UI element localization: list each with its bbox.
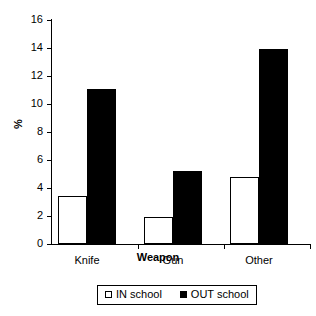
y-axis-tick-label: 0 [37,237,43,249]
y-axis-tick: 2 [47,216,52,217]
y-axis-tick: 6 [47,160,52,161]
y-axis-tick: 16 [47,20,52,21]
filled-square-icon [180,291,187,298]
bar-gun-out-school [173,171,202,244]
x-axis-tick [224,244,225,249]
y-axis-title: % [12,110,24,138]
y-axis-tick-label: 12 [31,69,43,81]
y-axis-tick-label: 16 [31,13,43,25]
hollow-square-icon [105,291,112,298]
legend-entry: IN school [105,288,162,301]
y-axis-tick-label: 4 [37,181,43,193]
y-axis-tick-label: 10 [31,97,43,109]
y-axis-tick-label: 14 [31,41,43,53]
y-axis-tick: 12 [47,76,52,77]
y-axis-tick-label: 8 [37,125,43,137]
bar-knife-out-school [87,89,116,244]
x-axis-tick [310,244,311,249]
y-axis-tick: 10 [47,104,52,105]
y-axis-tick: 0 [47,244,52,245]
bar-gun-in-school [144,217,173,244]
legend-label: IN school [116,288,162,301]
y-axis-tick: 4 [47,188,52,189]
y-axis-tick: 14 [47,48,52,49]
y-axis-tick: 8 [47,132,52,133]
plot-area: 0246810121416KnifeGunOther [52,20,310,244]
x-axis-tick [138,244,139,249]
bar-other-in-school [230,177,259,244]
chart-legend: IN schoolOUT school [97,285,257,305]
y-axis-tick-label: 6 [37,153,43,165]
legend-entry: OUT school [180,288,249,301]
bar-other-out-school [259,49,288,244]
legend-label: OUT school [191,288,249,301]
bar-knife-in-school [58,196,87,244]
x-axis-line [51,244,310,245]
y-axis-tick-label: 2 [37,209,43,221]
x-axis-title: Weapon [0,250,316,264]
bar-chart: 0246810121416KnifeGunOther % Weapon IN s… [0,0,316,316]
